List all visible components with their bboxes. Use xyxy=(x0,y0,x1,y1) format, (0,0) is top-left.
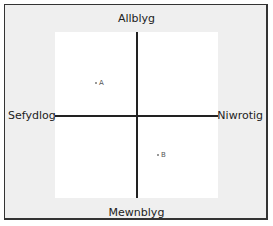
point-label: B xyxy=(161,151,166,159)
axis-label-bottom: Mewnblyg xyxy=(0,206,273,219)
axis-label-right: Niwrotig xyxy=(217,109,263,122)
point-b: B xyxy=(157,151,166,159)
axis-label-top: Allblyg xyxy=(0,12,273,25)
point-marker xyxy=(95,82,97,84)
point-a: A xyxy=(95,79,104,87)
axis-label-left: Sefydlog xyxy=(8,109,56,122)
point-label: A xyxy=(99,79,104,87)
horizontal-axis xyxy=(55,115,218,117)
point-marker xyxy=(157,154,159,156)
